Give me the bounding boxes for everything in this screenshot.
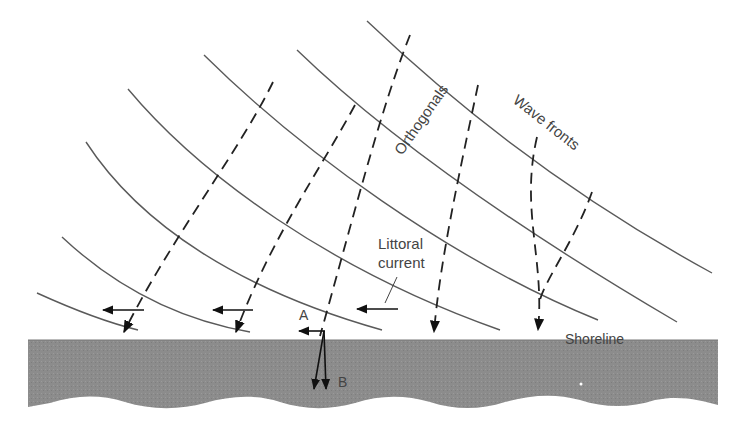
wave-fronts-label: Wave fronts xyxy=(510,91,583,153)
point-a-label: A xyxy=(299,307,309,323)
wave-fronts xyxy=(37,21,712,332)
littoral-label-line1: Littoral xyxy=(378,235,423,252)
littoral-current-arrows xyxy=(103,309,398,331)
littoral-label-line2: current xyxy=(378,254,426,271)
orthogonals-label: Orthogonals xyxy=(391,81,452,158)
land-area xyxy=(28,340,718,408)
littoral-leader xyxy=(385,277,397,303)
shoreline-label: Shoreline xyxy=(565,331,624,347)
speck xyxy=(580,383,583,386)
point-b-label: B xyxy=(338,374,347,390)
orthogonals xyxy=(124,35,592,336)
wave-refraction-diagram: Orthogonals Wave fronts Littoral current… xyxy=(0,0,746,437)
